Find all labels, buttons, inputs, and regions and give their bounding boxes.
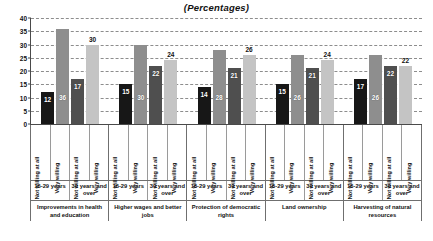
- bar[interactable]: 22: [399, 66, 412, 124]
- bar-value-label: 36: [59, 94, 66, 101]
- axis-category-label: Harvesting of natural resources: [344, 200, 421, 221]
- bar[interactable]: 36: [56, 29, 69, 124]
- axis-tick-label: Not willing at all: [31, 125, 51, 180]
- bar-group: 17262222: [344, 18, 422, 124]
- bar-slot: 24: [164, 18, 177, 124]
- bar[interactable]: 12: [41, 92, 54, 124]
- axis-group: Not willing at allVery willingNot willin…: [344, 125, 422, 221]
- bar[interactable]: 14: [198, 87, 211, 124]
- bar-value-label: 22: [387, 70, 394, 77]
- bar-value-label: 22: [152, 70, 159, 77]
- axis-group: Not willing at allVery willingNot willin…: [30, 125, 109, 221]
- axis-group: Not willing at allVery willingNot willin…: [109, 125, 187, 221]
- axis-category-label: Improvements in health and education: [31, 200, 108, 221]
- bar[interactable]: 21: [306, 68, 319, 124]
- axis-group: Not willing at allVery willingNot willin…: [187, 125, 265, 221]
- axis-tick-label: Very willing: [129, 125, 149, 180]
- bar-value-label: 17: [357, 83, 364, 90]
- axis-tick-label: Very willing: [324, 125, 343, 180]
- y-axis-tick-label: 10: [20, 94, 27, 101]
- axis-tick-label: Very willing: [246, 125, 265, 180]
- chart-container: (Percentages) 0510152025303540 123617301…: [0, 0, 433, 241]
- axis-tick-label: Not willing at all: [227, 125, 247, 180]
- axis-tick-label: Not willing at all: [70, 125, 90, 180]
- x-axis-labels: Not willing at allVery willingNot willin…: [30, 125, 422, 221]
- bar[interactable]: 22: [149, 66, 162, 124]
- axis-tick-label: Very willing: [363, 125, 383, 180]
- bar-value-label: 26: [245, 46, 252, 53]
- bar-slot: 36: [56, 18, 69, 124]
- bar-slot: 26: [291, 18, 304, 124]
- bar-slot: 17: [71, 18, 84, 124]
- axis-tick-label: Not willing at all: [148, 125, 168, 180]
- bar[interactable]: 22: [384, 66, 397, 124]
- bar-slot: 22: [399, 18, 412, 124]
- axis-tick-labels: Not willing at allVery willingNot willin…: [266, 125, 343, 180]
- bar[interactable]: 28: [213, 50, 226, 124]
- bar-value-label: 14: [200, 91, 207, 98]
- bar[interactable]: 30: [134, 45, 147, 125]
- axis-tick-labels: Not willing at allVery willingNot willin…: [187, 125, 264, 180]
- bar[interactable]: 17: [71, 79, 84, 124]
- bar-slot: 22: [384, 18, 397, 124]
- axis-tick-label: Very willing: [90, 125, 109, 180]
- axis-tick-label: Very willing: [168, 125, 187, 180]
- bar-value-label: 24: [167, 51, 174, 58]
- bar-slot: 21: [228, 18, 241, 124]
- bar-value-label: 21: [309, 72, 316, 79]
- chart-title: (Percentages): [0, 2, 433, 13]
- y-axis-tick-label: 0: [23, 121, 27, 128]
- bar-slot: 15: [276, 18, 289, 124]
- bar[interactable]: 26: [291, 55, 304, 124]
- bar-group: 15302224: [109, 18, 187, 124]
- bar-slot: 21: [306, 18, 319, 124]
- bar[interactable]: 15: [276, 84, 289, 124]
- bar[interactable]: 17: [354, 79, 367, 124]
- axis-category-label: Protection of democratic rights: [187, 200, 264, 221]
- bar-group: 12361730: [31, 18, 109, 124]
- plot-area: 0510152025303540 12361730153022241428212…: [30, 18, 422, 125]
- axis-tick-labels: Not willing at allVery willingNot willin…: [31, 125, 108, 180]
- bar-slot: 15: [119, 18, 132, 124]
- y-axis-tick-label: 35: [20, 28, 27, 35]
- bar-slot: 22: [149, 18, 162, 124]
- bar-value-label: 21: [230, 72, 237, 79]
- bar[interactable]: 26: [243, 55, 256, 124]
- bar-groups: 1236173015302224142821261526212417262222: [31, 18, 422, 124]
- axis-tick-label: Not willing at all: [305, 125, 325, 180]
- bar[interactable]: 21: [228, 68, 241, 124]
- y-axis-tick-label: 15: [20, 81, 27, 88]
- axis-tick-label: Not willing at all: [266, 125, 286, 180]
- axis-tick-label: Very willing: [51, 125, 71, 180]
- y-axis-tick-label: 40: [20, 15, 27, 22]
- axis-tick-label: Very willing: [402, 125, 421, 180]
- bar-value-label: 17: [74, 83, 81, 90]
- bar-group: 15262124: [266, 18, 344, 124]
- bar-slot: 24: [321, 18, 334, 124]
- bar[interactable]: 30: [86, 45, 99, 125]
- bar[interactable]: 15: [119, 84, 132, 124]
- bar[interactable]: 24: [164, 60, 177, 124]
- bar-value-label: 15: [122, 88, 129, 95]
- bar-slot: 30: [134, 18, 147, 124]
- bar-value-label: 15: [279, 88, 286, 95]
- bar-value-label: 12: [44, 96, 51, 103]
- axis-tick-label: Not willing at all: [109, 125, 129, 180]
- y-axis-tick-label: 5: [23, 107, 27, 114]
- axis-tick-label: Not willing at all: [383, 125, 403, 180]
- bar-slot: 28: [213, 18, 226, 124]
- axis-tick-labels: Not willing at allVery willingNot willin…: [344, 125, 421, 180]
- bar-slot: 17: [354, 18, 367, 124]
- bar-group: 14282126: [187, 18, 265, 124]
- axis-category-label: Higher wages and better jobs: [109, 200, 186, 221]
- axis-category-label: Land ownership: [266, 200, 343, 214]
- bar-value-label: 22: [402, 57, 409, 64]
- axis-tick-label: Very willing: [207, 125, 227, 180]
- bar-slot: 30: [86, 18, 99, 124]
- axis-tick-label: Very willing: [285, 125, 305, 180]
- bar[interactable]: 24: [321, 60, 334, 124]
- bar-value-label: 28: [215, 94, 222, 101]
- bar[interactable]: 26: [369, 55, 382, 124]
- bar-slot: 26: [369, 18, 382, 124]
- bar-value-label: 26: [372, 94, 379, 101]
